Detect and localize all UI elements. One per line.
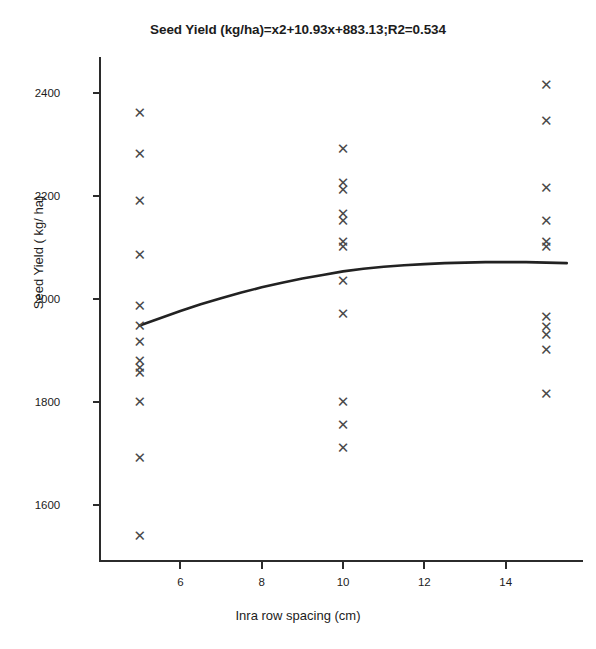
- x-axis-tick: [423, 561, 425, 569]
- data-point-marker: ✕: [539, 240, 554, 255]
- data-point-marker: ✕: [539, 181, 554, 196]
- data-point-marker: ✕: [539, 343, 554, 358]
- x-axis-tick-label: 6: [177, 576, 183, 588]
- y-axis-label: Seed Yield ( kg/ ha): [31, 153, 46, 353]
- data-point-marker: ✕: [132, 299, 147, 314]
- x-axis-tick: [179, 561, 181, 569]
- x-axis-label: Inra row spacing (cm): [0, 608, 596, 623]
- data-point-marker: ✕: [132, 319, 147, 334]
- data-point-marker: ✕: [336, 214, 351, 229]
- x-axis-tick-label: 12: [418, 576, 431, 588]
- x-axis-tick-label: 8: [258, 576, 264, 588]
- x-axis-tick: [261, 561, 263, 569]
- data-point-marker: ✕: [132, 451, 147, 466]
- data-point-marker: ✕: [539, 114, 554, 129]
- data-point-marker: ✕: [539, 78, 554, 93]
- x-axis-tick-label: 14: [499, 576, 512, 588]
- data-point-marker: ✕: [132, 529, 147, 544]
- data-point-marker: ✕: [336, 418, 351, 433]
- data-point-marker: ✕: [336, 441, 351, 456]
- y-axis-tick-label: 2400: [35, 87, 61, 99]
- data-point-marker: ✕: [132, 248, 147, 263]
- x-axis-tick: [505, 561, 507, 569]
- x-axis-tick: [342, 561, 344, 569]
- data-point-marker: ✕: [132, 106, 147, 121]
- scatter-plot-figure: Seed Yield (kg/ha)=x2+10.93x+883.13;R2=0…: [0, 0, 596, 649]
- x-axis-tick-label: 10: [337, 576, 350, 588]
- data-point-marker: ✕: [132, 395, 147, 410]
- data-point-marker: ✕: [336, 142, 351, 157]
- data-point-marker: ✕: [132, 366, 147, 381]
- data-point-marker: ✕: [132, 335, 147, 350]
- data-point-marker: ✕: [336, 307, 351, 322]
- data-point-marker: ✕: [336, 240, 351, 255]
- plot-area: 16001800200022002400 68101214 ✕✕✕✕✕✕✕✕✕✕…: [99, 57, 583, 562]
- data-point-marker: ✕: [132, 147, 147, 162]
- data-point-marker: ✕: [336, 395, 351, 410]
- data-point-marker: ✕: [132, 194, 147, 209]
- data-point-marker: ✕: [336, 183, 351, 198]
- data-point-marker: ✕: [336, 274, 351, 289]
- y-axis-tick-label: 1800: [35, 396, 61, 408]
- chart-title: Seed Yield (kg/ha)=x2+10.93x+883.13;R2=0…: [0, 22, 596, 37]
- data-point-marker: ✕: [539, 214, 554, 229]
- y-axis-tick-label: 1600: [35, 499, 61, 511]
- data-point-marker: ✕: [539, 387, 554, 402]
